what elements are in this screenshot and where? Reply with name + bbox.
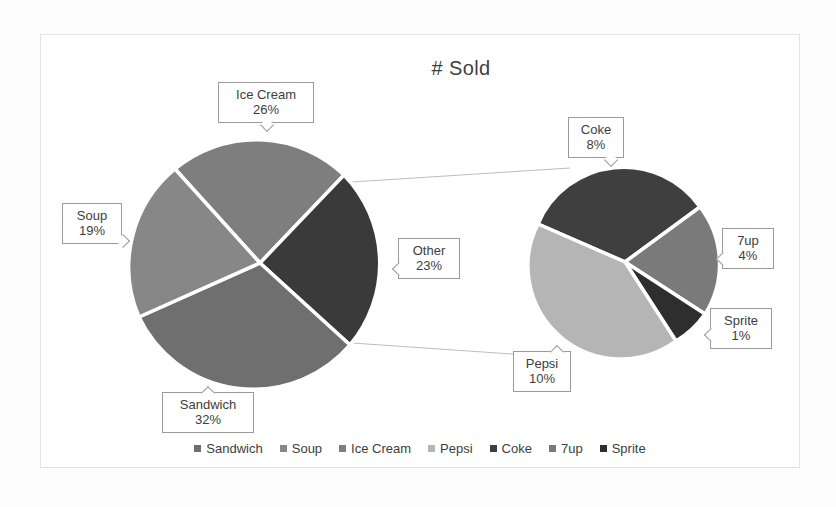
legend-item[interactable]: Ice Cream <box>339 441 411 456</box>
data-label-soup-value: 19% <box>70 223 114 238</box>
legend-item-label: Sprite <box>612 441 646 456</box>
legend-item[interactable]: Soup <box>280 441 322 456</box>
data-label-pepsi-value: 10% <box>521 371 563 386</box>
data-label-coke-value: 8% <box>576 137 616 152</box>
data-label-other-value: 23% <box>406 258 452 273</box>
data-label-7up: 7up 4% <box>722 228 774 269</box>
legend-item-label: Soup <box>292 441 322 456</box>
legend-item-label: Coke <box>502 441 532 456</box>
legend-item[interactable]: Sandwich <box>194 441 262 456</box>
legend-item-label: Ice Cream <box>351 441 411 456</box>
data-label-other: Other 23% <box>398 238 460 279</box>
data-label-ice-cream-value: 26% <box>226 102 306 117</box>
data-label-7up-value: 4% <box>730 248 766 263</box>
legend-item[interactable]: Sprite <box>600 441 646 456</box>
legend-swatch-icon <box>549 445 556 452</box>
data-label-7up-name: 7up <box>730 233 766 248</box>
data-label-sprite-name: Sprite <box>718 313 764 328</box>
data-label-coke: Coke 8% <box>568 117 624 158</box>
legend-swatch-icon <box>490 445 497 452</box>
data-label-ice-cream: Ice Cream 26% <box>218 82 314 123</box>
legend-swatch-icon <box>600 445 607 452</box>
legend-swatch-icon <box>428 445 435 452</box>
legend-item[interactable]: Pepsi <box>428 441 473 456</box>
legend-item-label: Pepsi <box>440 441 473 456</box>
chart-title: # Sold <box>41 57 801 80</box>
data-label-soup-name: Soup <box>70 208 114 223</box>
data-label-other-name: Other <box>406 243 452 258</box>
legend-swatch-icon <box>194 445 201 452</box>
legend-item-label: 7up <box>561 441 583 456</box>
data-label-sprite: Sprite 1% <box>710 308 772 349</box>
legend-item-label: Sandwich <box>206 441 262 456</box>
data-label-sandwich-value: 32% <box>170 412 246 427</box>
legend-swatch-icon <box>339 445 346 452</box>
data-label-soup: Soup 19% <box>62 203 122 244</box>
data-label-pepsi: Pepsi 10% <box>513 351 571 392</box>
scanned-page: # Sold Ice Cream 26% Soup 19% S <box>0 0 836 507</box>
data-label-ice-cream-name: Ice Cream <box>226 87 306 102</box>
data-label-coke-name: Coke <box>576 122 616 137</box>
legend-swatch-icon <box>280 445 287 452</box>
chart-legend: SandwichSoupIce CreamPepsiCoke7upSprite <box>40 441 800 456</box>
legend-item[interactable]: Coke <box>490 441 532 456</box>
legend-item[interactable]: 7up <box>549 441 583 456</box>
data-label-sprite-value: 1% <box>718 328 764 343</box>
